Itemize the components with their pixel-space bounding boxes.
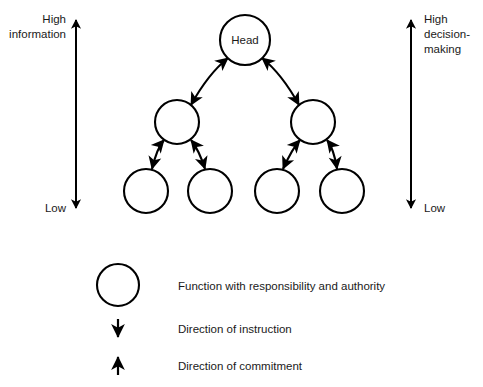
node-mid-left[interactable]	[155, 100, 199, 144]
link-head-to-mid-left	[191, 58, 228, 105]
information-axis-high-label-line1: High	[42, 13, 66, 25]
decision-axis-high-label-line1: High	[424, 13, 448, 25]
diagram-canvas: High information Low High decision- maki…	[0, 0, 483, 387]
decision-axis-low-label: Low	[424, 202, 446, 214]
legend-row-function: Function with responsibility and authori…	[97, 264, 385, 306]
legend: Function with responsibility and authori…	[97, 264, 385, 375]
node-leaf-2[interactable]	[188, 169, 232, 213]
decision-axis-high-label-line3: making	[424, 43, 461, 55]
node-leaf-1[interactable]	[124, 169, 168, 213]
node-mid-right[interactable]	[291, 100, 335, 144]
link-mid-left-to-leaf-2	[191, 140, 205, 169]
legend-label-commitment: Direction of commitment	[178, 360, 303, 372]
node-leaf-3[interactable]	[255, 169, 299, 213]
node-leaf-4[interactable]	[320, 169, 364, 213]
link-mid-left-to-leaf-1	[152, 140, 164, 169]
legend-label-instruction: Direction of instruction	[178, 323, 292, 335]
node-group: Head	[124, 15, 364, 213]
link-mid-right-to-leaf-4	[327, 140, 337, 169]
information-axis: High information Low	[9, 13, 76, 214]
information-axis-high-label-line2: information	[9, 28, 66, 40]
decision-axis-high-label-line2: decision-	[424, 28, 470, 40]
link-mid-right-to-leaf-3	[283, 140, 300, 169]
legend-row-commitment: Direction of commitment	[118, 357, 303, 375]
information-axis-low-label: Low	[45, 202, 67, 214]
circle-icon	[97, 264, 139, 306]
legend-label-function: Function with responsibility and authori…	[178, 280, 385, 292]
decision-making-axis: High decision- making Low	[411, 13, 470, 214]
link-head-to-mid-right	[262, 58, 299, 105]
hierarchy-diagram: High information Low High decision- maki…	[0, 0, 483, 387]
legend-row-instruction: Direction of instruction	[118, 319, 292, 337]
node-head-label: Head	[231, 34, 259, 46]
